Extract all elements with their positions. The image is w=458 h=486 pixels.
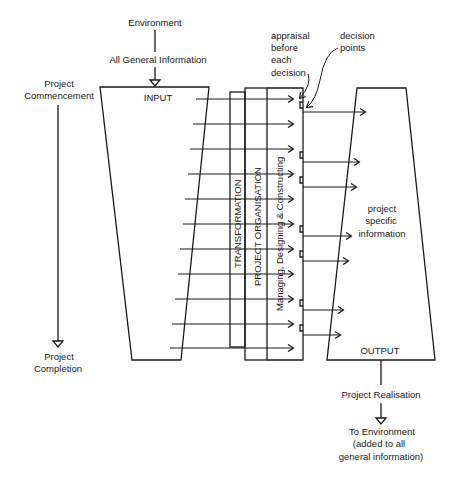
- activities-label: Managing, Designing & Constructing: [274, 157, 285, 311]
- input-arrow-icon: [150, 80, 160, 86]
- svg-text:before: before: [271, 42, 298, 53]
- specific-info-line2: specific: [365, 215, 397, 226]
- realisation-label: Project Realisation: [341, 389, 420, 400]
- to-environment-line2: (added to all: [353, 438, 405, 449]
- commencement-line2: Commencement: [24, 90, 94, 101]
- organisation-label: PROJECT ORGANISATION: [252, 167, 263, 286]
- environment-label: Environment: [128, 17, 182, 28]
- input-label: INPUT: [144, 92, 173, 103]
- general-info-label: All General Information: [109, 54, 206, 65]
- timeline-arrow-icon: [53, 341, 63, 347]
- svg-text:decision: decision: [271, 67, 306, 78]
- svg-text:points: points: [340, 42, 366, 53]
- decision-points-annotation: decision points: [307, 30, 375, 107]
- to-environment-line3: general information): [339, 451, 424, 462]
- specific-info-line1: project: [368, 203, 397, 214]
- completion-line2: Completion: [34, 363, 82, 374]
- project-process-diagram: Environment All General Information Proj…: [0, 0, 458, 486]
- to-environment-line1: To Environment: [349, 426, 415, 437]
- svg-text:appraisal: appraisal: [271, 30, 310, 41]
- completion-line1: Project: [44, 351, 74, 362]
- svg-text:decision: decision: [340, 30, 375, 41]
- commencement-line1: Project: [44, 78, 74, 89]
- specific-info-line3: information: [359, 228, 406, 239]
- svg-text:each: each: [271, 54, 292, 65]
- environment-return-arrow-icon: [376, 418, 386, 424]
- output-label: OUTPUT: [360, 345, 399, 356]
